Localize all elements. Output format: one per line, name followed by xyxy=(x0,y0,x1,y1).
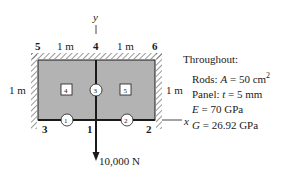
node-6: 6 xyxy=(152,40,158,52)
properties-block: Throughout: Rods: A = 50 cm2 Panel: t = … xyxy=(183,52,270,133)
node-5: 5 xyxy=(35,40,41,52)
elastic-modulus: E = 70 GPa xyxy=(183,102,270,118)
properties-heading: Throughout: xyxy=(183,52,270,68)
dim-left-height: 1 m xyxy=(9,84,26,96)
node-3: 3 xyxy=(42,123,48,135)
dim-top-left: 1 m xyxy=(57,40,74,52)
y-axis-label: y xyxy=(93,11,98,23)
dim-top-right: 1 m xyxy=(117,40,134,52)
panel-label-5: 5 xyxy=(124,85,128,97)
panel-label-4: 4 xyxy=(64,85,68,97)
dim-right-height: 1 m xyxy=(166,84,183,96)
top-wall-hatch xyxy=(31,53,162,59)
left-wall-hatch xyxy=(31,53,37,129)
panel-property: Panel: t = 5 mm xyxy=(183,87,270,103)
rod-label-3: 3 xyxy=(94,85,98,97)
rod-label-2: 2 xyxy=(124,115,128,127)
rods-property: Rods: A = 50 cm2 xyxy=(183,68,270,87)
load-label: 10,000 N xyxy=(99,155,140,167)
node-1: 1 xyxy=(87,123,93,135)
rod-label-1: 1 xyxy=(64,115,68,127)
node-4: 4 xyxy=(93,40,99,52)
shear-modulus: G = 26.92 GPa xyxy=(183,118,270,134)
node-2: 2 xyxy=(146,123,152,135)
right-wall-hatch xyxy=(156,53,162,129)
